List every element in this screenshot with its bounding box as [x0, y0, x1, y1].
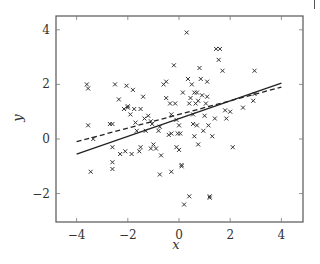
data-point-x-marker — [158, 172, 162, 176]
data-point-x-marker — [178, 132, 182, 136]
data-point-x-marker — [85, 82, 89, 86]
data-point-x-marker — [195, 91, 199, 95]
data-point-x-marker — [196, 142, 200, 146]
data-point-x-marker — [123, 149, 127, 153]
data-point-x-marker — [181, 91, 185, 95]
data-point-x-marker — [241, 106, 245, 110]
scatter-chart: −4−2024−2024 x y — [0, 0, 320, 264]
data-point-x-marker — [173, 102, 177, 106]
data-point-x-marker — [122, 107, 126, 111]
data-point-x-marker — [251, 99, 255, 103]
y-tick-label: 2 — [42, 77, 50, 91]
y-tick-label: 0 — [42, 132, 50, 146]
solid-fit-line — [77, 83, 282, 154]
y-tick-label: 4 — [42, 23, 50, 37]
data-point-x-marker — [224, 117, 228, 121]
data-point-x-marker — [130, 152, 134, 156]
x-tick-label: −2 — [119, 228, 137, 242]
data-point-x-marker — [223, 108, 227, 112]
data-point-x-marker — [139, 145, 143, 149]
data-point-x-marker — [86, 123, 90, 127]
data-point-x-marker — [201, 129, 205, 133]
data-point-x-marker — [149, 147, 153, 151]
data-point-x-marker — [218, 47, 222, 51]
axis-ticks: −4−2024−2024 — [32, 16, 303, 242]
data-point-x-marker — [125, 84, 129, 88]
x-tick-label: −4 — [68, 228, 86, 242]
data-point-x-marker — [200, 93, 204, 97]
data-point-x-marker — [228, 110, 232, 114]
data-point-x-marker — [206, 123, 210, 127]
data-point-x-marker — [217, 58, 221, 62]
data-point-x-marker — [189, 96, 193, 100]
data-point-x-marker — [133, 121, 137, 125]
x-axis-label: x — [172, 237, 180, 252]
regression-lines — [77, 83, 282, 154]
data-point-x-marker — [204, 102, 208, 106]
data-point-x-marker — [151, 142, 155, 146]
data-point-x-marker — [164, 80, 168, 84]
data-point-x-marker — [177, 123, 181, 127]
data-point-x-marker — [253, 69, 257, 73]
y-axis-label: y — [10, 114, 25, 123]
data-point-x-marker — [172, 63, 176, 67]
data-points — [85, 31, 257, 207]
data-point-x-marker — [86, 86, 90, 90]
data-point-x-marker — [154, 147, 158, 151]
data-point-x-marker — [187, 102, 191, 106]
data-point-x-marker — [117, 97, 121, 101]
data-point-x-marker — [110, 145, 114, 149]
data-point-x-marker — [190, 82, 194, 86]
data-point-x-marker — [231, 145, 235, 149]
data-point-x-marker — [141, 95, 145, 99]
data-point-x-marker — [110, 160, 114, 164]
data-point-x-marker — [221, 69, 225, 73]
data-point-x-marker — [196, 99, 200, 103]
data-point-x-marker — [89, 170, 93, 174]
data-point-x-marker — [168, 102, 172, 106]
x-tick-label: 4 — [278, 228, 286, 242]
data-point-x-marker — [159, 153, 163, 157]
page-edge-mark — [314, 0, 315, 9]
data-point-x-marker — [142, 117, 146, 121]
data-point-x-marker — [113, 82, 117, 86]
data-point-x-marker — [192, 134, 196, 138]
data-point-x-marker — [164, 96, 168, 100]
data-point-x-marker — [214, 47, 218, 51]
data-point-x-marker — [131, 88, 135, 92]
data-point-x-marker — [110, 122, 114, 126]
dashed-fit-line — [77, 87, 282, 142]
x-tick-label: 2 — [226, 228, 234, 242]
data-point-x-marker — [199, 77, 203, 81]
data-point-x-marker — [195, 123, 199, 127]
data-point-x-marker — [146, 114, 150, 118]
data-point-x-marker — [205, 95, 209, 99]
data-point-x-marker — [137, 149, 141, 153]
y-tick-label: −2 — [32, 187, 50, 201]
data-point-x-marker — [132, 107, 136, 111]
data-point-x-marker — [177, 148, 181, 152]
data-point-x-marker — [128, 112, 132, 116]
data-point-x-marker — [185, 31, 189, 35]
data-point-x-marker — [169, 170, 173, 174]
data-point-x-marker — [139, 107, 143, 111]
data-point-x-marker — [210, 134, 214, 138]
data-point-x-marker — [187, 194, 191, 198]
data-point-x-marker — [110, 167, 114, 171]
data-point-x-marker — [182, 203, 186, 207]
data-point-x-marker — [197, 66, 201, 70]
data-point-x-marker — [203, 114, 207, 118]
data-point-x-marker — [157, 129, 161, 133]
data-point-x-marker — [213, 117, 217, 121]
data-point-x-marker — [118, 152, 122, 156]
data-point-x-marker — [186, 77, 190, 81]
data-point-x-marker — [205, 80, 209, 84]
data-point-x-marker — [191, 122, 195, 126]
